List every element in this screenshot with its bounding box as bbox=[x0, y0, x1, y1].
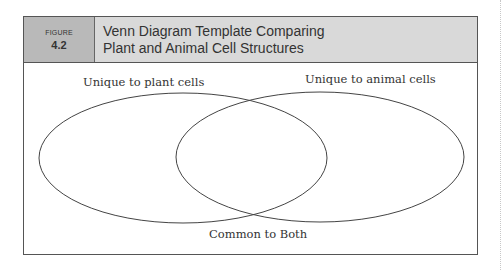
common-to-both-label: Common to Both bbox=[209, 227, 307, 241]
animal-cell-ellipse bbox=[176, 92, 464, 222]
animal-cells-label: Unique to animal cells bbox=[305, 72, 436, 86]
page-edge-divider bbox=[500, 0, 501, 270]
plant-cells-label: Unique to plant cells bbox=[83, 75, 204, 89]
plant-cell-ellipse bbox=[39, 93, 327, 223]
